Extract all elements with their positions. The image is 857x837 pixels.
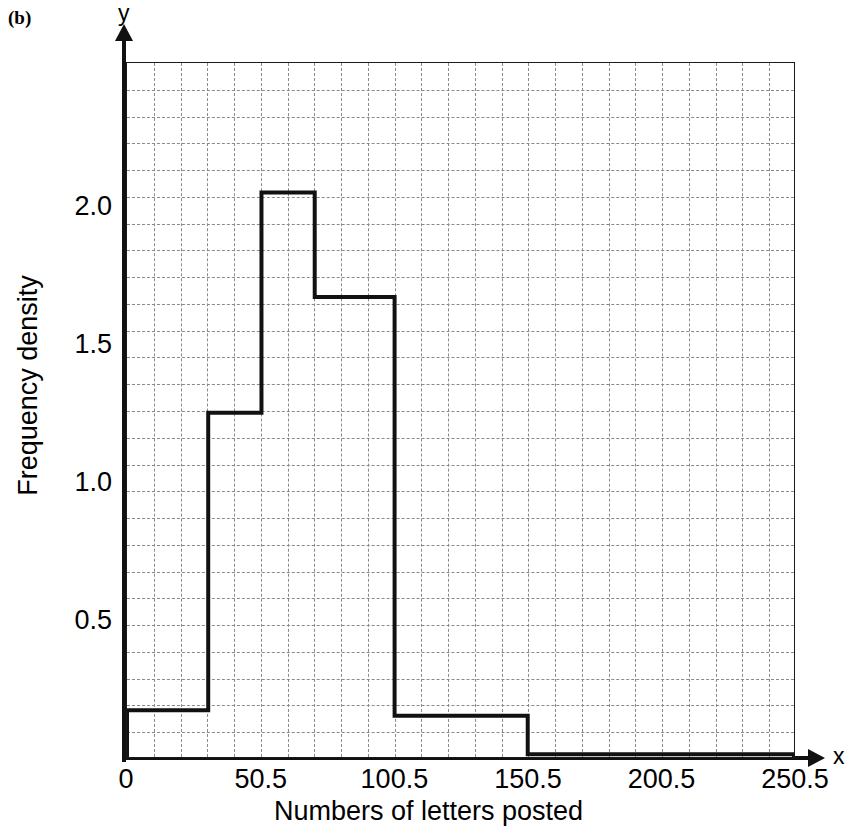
x-axis-letter: x: [833, 745, 845, 768]
y-axis-title: Frequency density: [15, 106, 42, 666]
histogram-outline: [127, 63, 794, 757]
x-tick-label: 250.5: [761, 766, 829, 793]
histogram-figure: (b) y x 0.51.01.52.0 050.5100.5150.5200.…: [0, 0, 857, 837]
x-axis-title: Numbers of letters posted: [0, 798, 857, 825]
y-axis-letter: y: [118, 2, 130, 25]
part-label: (b): [8, 8, 31, 27]
x-tick-label: 0: [118, 766, 133, 793]
x-tick-label: 200.5: [628, 766, 696, 793]
x-tick-label: 50.5: [235, 766, 288, 793]
x-tick-label: 150.5: [494, 766, 562, 793]
plot-area: [126, 62, 795, 758]
x-tick-label: 100.5: [361, 766, 429, 793]
